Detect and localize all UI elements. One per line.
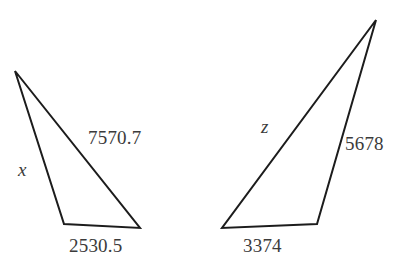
right-triangle-side-label: 5678 bbox=[345, 134, 384, 153]
left-triangle-hypotenuse-label: 7570.7 bbox=[88, 128, 141, 147]
right-triangle-outline bbox=[222, 20, 376, 228]
left-triangle-base-label: 2530.5 bbox=[69, 236, 122, 255]
left-triangle-side-label-x: x bbox=[18, 160, 27, 179]
right-triangle-hypotenuse-label-z: z bbox=[261, 117, 269, 136]
right-triangle-base-label: 3374 bbox=[243, 236, 282, 255]
left-triangle-outline bbox=[15, 71, 140, 228]
geometry-figure: 7570.7 x 2530.5 z 5678 3374 bbox=[0, 0, 405, 269]
